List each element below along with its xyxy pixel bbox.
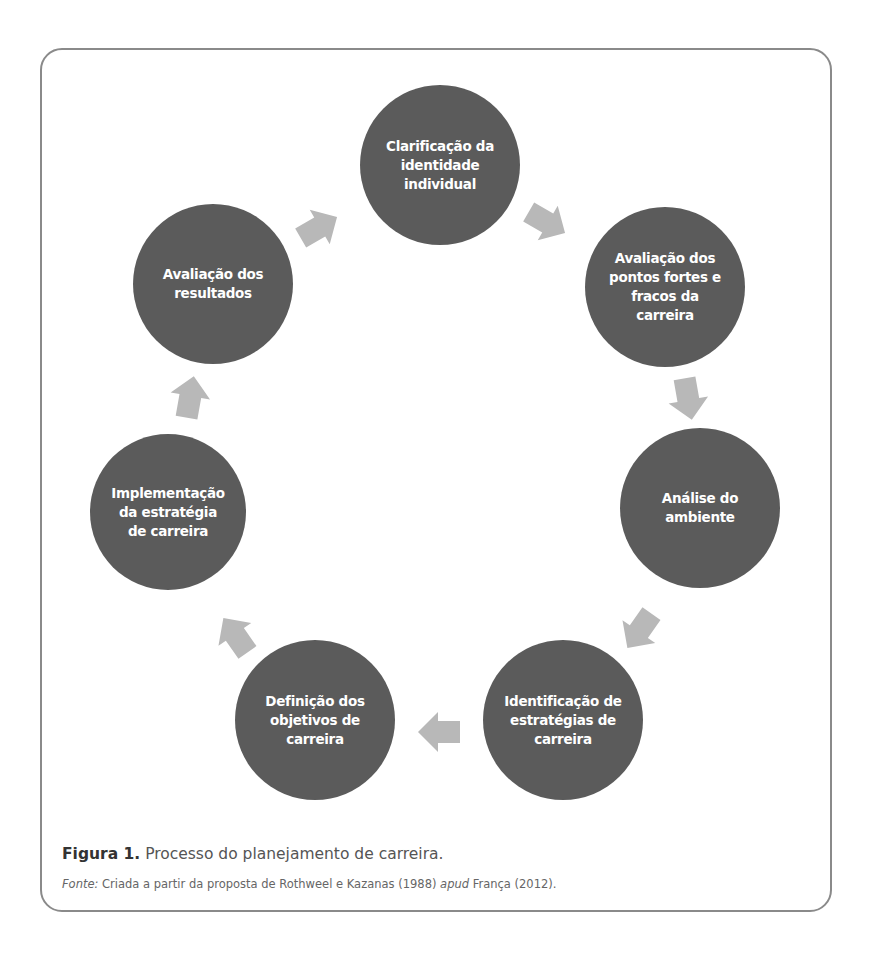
node-label: Análise do ambiente bbox=[662, 489, 738, 527]
node-label: Avaliação dos resultados bbox=[163, 265, 263, 303]
node-label: Identificação de estratégias de carreira bbox=[504, 692, 621, 749]
figure-source: Fonte: Criada a partir da proposta de Ro… bbox=[62, 877, 556, 891]
flow-arrow-icon bbox=[611, 602, 668, 659]
flow-arrow-icon bbox=[207, 607, 264, 664]
process-node-7: Avaliação dos resultados bbox=[133, 204, 293, 364]
node-label: Clarificação da identidade individual bbox=[386, 137, 494, 194]
process-node-3: Análise do ambiente bbox=[620, 428, 780, 588]
flow-arrow-icon bbox=[167, 373, 214, 421]
flow-arrow-icon bbox=[418, 712, 460, 752]
caption-text: Processo do planejamento de carreira. bbox=[140, 845, 443, 863]
source-text: Criada a partir da proposta de Rothweel … bbox=[98, 877, 440, 891]
process-node-6: Implementação da estratégia de carreira bbox=[90, 434, 246, 590]
node-label: Implementação da estratégia de carreira bbox=[111, 484, 224, 541]
source-text-end: França (2012). bbox=[469, 877, 556, 891]
flow-arrow-icon bbox=[519, 195, 575, 251]
process-node-5: Definição dos objetivos de carreira bbox=[235, 640, 395, 800]
process-node-4: Identificação de estratégias de carreira bbox=[483, 640, 643, 800]
process-node-2: Avaliação dos pontos fortes e fracos da … bbox=[585, 207, 745, 367]
source-apud: apud bbox=[440, 877, 469, 891]
flow-arrow-icon bbox=[291, 200, 347, 256]
node-label: Definição dos objetivos de carreira bbox=[265, 692, 364, 749]
source-label: Fonte: bbox=[62, 877, 98, 891]
node-label: Avaliação dos pontos fortes e fracos da … bbox=[609, 249, 721, 325]
figure-caption: Figura 1. Processo do planejamento de ca… bbox=[62, 845, 443, 863]
caption-label: Figura 1. bbox=[62, 845, 140, 863]
flow-arrow-icon bbox=[665, 375, 712, 423]
process-node-1: Clarificação da identidade individual bbox=[360, 85, 520, 245]
